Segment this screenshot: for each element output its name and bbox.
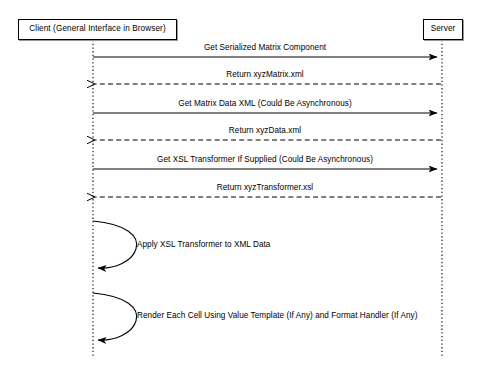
participant-box-server[interactable]: Server: [423, 19, 463, 40]
message-label-1: Get Serialized Matrix Component: [204, 44, 326, 52]
message-label-3: Get Matrix Data XML (Could Be Asynchrono…: [178, 100, 351, 108]
self-message-label-1: Apply XSL Transformer to XML Data: [137, 241, 270, 249]
self-message-arc-1: [93, 221, 137, 268]
self-message-arc-2: [93, 293, 137, 340]
participant-label-client: Client (General Interface in Browser): [29, 25, 166, 33]
message-label-4: Return xyzData.xml: [229, 127, 301, 135]
message-label-2: Return xyzMatrix.xml: [226, 71, 303, 79]
participant-label-server: Server: [431, 25, 456, 33]
self-message-label-2: Render Each Cell Using Value Template (I…: [137, 312, 418, 320]
sequence-diagram: Client (General Interface in Browser) Se…: [0, 0, 479, 375]
message-label-5: Get XSL Transformer If Supplied (Could B…: [157, 156, 373, 164]
message-label-6: Return xyzTransformer.xsl: [217, 184, 314, 192]
participant-box-client[interactable]: Client (General Interface in Browser): [18, 19, 177, 40]
